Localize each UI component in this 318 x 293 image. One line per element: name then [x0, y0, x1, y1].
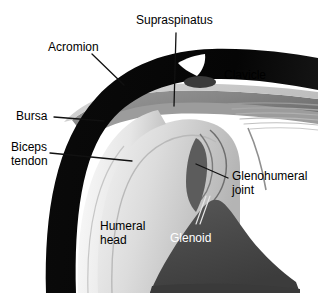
shoulder-anatomy-diagram: Supraspinatus Acromion Clavicle Bursa Bi… — [0, 0, 318, 293]
label-biceps-tendon-line1: Biceps — [11, 141, 47, 154]
label-humeral-head-line1: Humeral — [100, 220, 145, 233]
label-supraspinatus: Supraspinatus — [136, 14, 213, 27]
label-glenohumeral-joint-line1: Glenohumeral — [232, 170, 307, 183]
label-humeral-head-line2: head — [100, 234, 127, 247]
ac-joint-disc — [184, 76, 216, 88]
label-glenohumeral-joint-line2: joint — [232, 184, 254, 197]
label-glenoid: Glenoid — [170, 232, 211, 245]
label-bursa: Bursa — [16, 110, 47, 123]
label-acromion: Acromion — [48, 41, 99, 54]
label-clavicle: Clavicle — [224, 69, 266, 82]
label-biceps-tendon-line2: tendon — [11, 155, 48, 168]
